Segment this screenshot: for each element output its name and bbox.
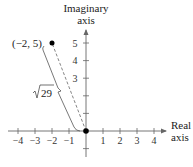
y-axis-label-line2: axis [77,14,95,26]
x-tick-label: 3 [135,135,140,146]
x-tick-label: −2 [47,135,58,146]
x-tick-label: −4 [13,135,24,146]
x-tick-label: 2 [118,135,123,146]
x-axis-label-line1: Real [171,119,191,131]
point-origin [83,128,89,134]
x-tick-label: 4 [152,135,157,146]
point-label: (−2, 5) [12,37,42,50]
y-tick-label: 3 [73,73,78,84]
x-tick-label: 1 [101,135,106,146]
y-axis-label-line1: Imaginary [63,2,109,14]
x-tick-label: −1 [64,135,75,146]
x-tick-label: −3 [30,135,41,146]
distance-value: 29 [41,87,53,99]
point-neg2-5 [50,41,55,46]
complex-plane-diagram: −4−3−2−11234 345 Imaginary axis Real axi… [0,0,193,167]
distance-segment [52,43,86,131]
distance-label: 29 [33,85,54,99]
x-axis-label-line2: axis [171,131,189,143]
imaginary-axis-arrow-icon [84,29,89,35]
y-tick-label: 4 [73,55,78,66]
real-axis-arrow-icon [161,129,167,134]
y-tick-label: 5 [73,38,78,49]
